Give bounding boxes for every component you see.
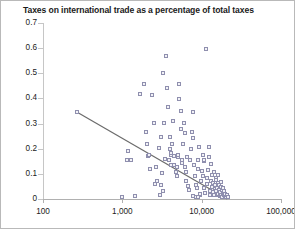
scatter-point xyxy=(193,174,197,178)
x-tick-mark xyxy=(281,199,282,203)
scatter-point xyxy=(148,167,152,171)
scatter-point xyxy=(183,131,187,135)
y-tick-label: 0.4 xyxy=(1,93,37,102)
scatter-point xyxy=(183,165,187,169)
chart-figure: Taxes on international trade as a percen… xyxy=(0,0,295,229)
scatter-point xyxy=(189,147,193,151)
scatter-point xyxy=(226,195,230,199)
y-tick-label: 0.2 xyxy=(1,144,37,153)
scatter-point xyxy=(184,179,188,183)
scatter-point xyxy=(197,145,201,149)
scatter-point xyxy=(142,82,146,86)
scatter-point xyxy=(138,92,142,96)
scatter-point xyxy=(129,158,133,162)
scatter-point xyxy=(145,142,149,146)
scatter-point xyxy=(175,165,179,169)
scatter-point xyxy=(152,121,156,125)
scatter-point xyxy=(177,97,181,101)
scatter-point xyxy=(182,121,186,125)
scatter-point xyxy=(120,195,124,199)
scatter-point xyxy=(202,158,206,162)
scatter-point xyxy=(191,136,195,140)
x-tick-mark xyxy=(43,199,44,203)
scatter-point xyxy=(216,173,220,177)
scatter-point xyxy=(171,119,175,123)
scatter-point xyxy=(207,145,211,149)
scatter-point xyxy=(150,93,154,97)
scatter-point xyxy=(158,193,162,197)
scatter-point xyxy=(200,169,204,173)
scatter-point xyxy=(125,158,129,162)
x-tick-label: 100 xyxy=(13,207,73,216)
scatter-point xyxy=(169,151,173,155)
scatter-point xyxy=(214,178,218,182)
y-tick-label: 0.5 xyxy=(1,68,37,77)
scatter-point xyxy=(199,179,203,183)
scatter-point xyxy=(126,149,130,153)
scatter-point xyxy=(195,186,199,190)
x-tick-label: 10,000 xyxy=(172,207,232,216)
scatter-point xyxy=(162,121,166,125)
scatter-point xyxy=(191,110,195,114)
x-axis-line xyxy=(43,199,281,200)
scatter-point xyxy=(188,158,192,162)
scatter-point xyxy=(133,194,137,198)
scatter-point xyxy=(196,195,200,199)
scatter-point xyxy=(180,158,184,162)
scatter-point xyxy=(184,170,188,174)
scatter-point xyxy=(167,158,171,162)
scatter-point xyxy=(157,146,161,150)
x-tick-mark xyxy=(202,199,203,203)
scatter-point xyxy=(219,180,223,184)
x-tick-label: 100,000 xyxy=(251,207,295,216)
scatter-point xyxy=(204,47,208,51)
scatter-point xyxy=(160,171,164,175)
y-tick-label: 0.7 xyxy=(1,18,37,27)
scatter-point xyxy=(203,191,207,195)
scatter-point xyxy=(154,165,158,169)
scatter-point xyxy=(177,82,181,86)
y-tick-label: 0.6 xyxy=(1,43,37,52)
scatter-point xyxy=(181,142,185,146)
scatter-point xyxy=(147,153,151,157)
scatter-point xyxy=(179,109,183,113)
scatter-point xyxy=(144,130,148,134)
scatter-point xyxy=(166,105,170,109)
chart-title: Taxes on international trade as a percen… xyxy=(23,5,285,16)
scatter-point xyxy=(175,174,179,178)
scatter-point xyxy=(206,168,210,172)
scatter-point xyxy=(176,153,180,157)
scatter-point xyxy=(170,142,174,146)
scatter-plot-area xyxy=(43,23,281,199)
scatter-point xyxy=(202,186,206,190)
scatter-point xyxy=(168,135,172,139)
scatter-point xyxy=(75,110,79,114)
y-tick-label: 0 xyxy=(1,194,37,203)
scatter-point xyxy=(209,162,213,166)
scatter-point xyxy=(165,86,169,90)
scatter-point xyxy=(161,71,165,75)
scatter-point xyxy=(201,153,205,157)
y-tick-label: 0.1 xyxy=(1,169,37,178)
scatter-point xyxy=(190,130,194,134)
y-tick-label: 0.3 xyxy=(1,119,37,128)
scatter-point xyxy=(164,54,168,58)
scatter-point xyxy=(159,135,163,139)
x-tick-label: 1,000 xyxy=(92,207,152,216)
scatter-point xyxy=(187,188,191,192)
scatter-point xyxy=(153,182,157,186)
scatter-point xyxy=(159,183,163,187)
scatter-point xyxy=(207,155,211,159)
scatter-point xyxy=(196,158,200,162)
x-tick-mark xyxy=(122,199,123,203)
